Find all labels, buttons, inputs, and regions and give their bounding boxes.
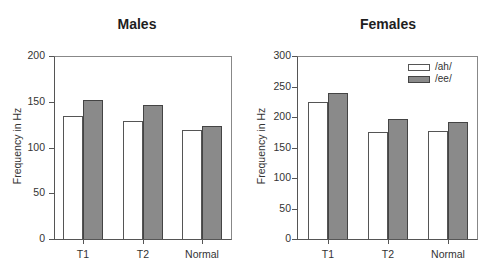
legend-swatch-ah (408, 64, 430, 71)
y-tick-label: 250 (261, 80, 291, 92)
y-tick (292, 56, 297, 57)
x-tick (448, 239, 449, 244)
y-tick-label: 100 (261, 171, 291, 183)
bar-t1-ah (308, 102, 328, 239)
legend-label: /ah/ (435, 61, 452, 72)
x-tick-label: T2 (363, 248, 413, 260)
y-tick (292, 117, 297, 118)
y-tick-label: 150 (261, 141, 291, 153)
x-tick-label: T1 (303, 248, 353, 260)
y-tick-label: 300 (261, 49, 291, 61)
y-tick (292, 178, 297, 179)
chart-title: Females (328, 16, 448, 32)
bar-t2-ee (388, 119, 408, 239)
y-tick (292, 209, 297, 210)
y-tick (292, 239, 297, 240)
y-tick (292, 87, 297, 88)
x-tick (388, 239, 389, 244)
y-tick-label: 50 (261, 202, 291, 214)
y-tick-label: 200 (261, 110, 291, 122)
x-tick-label: Normal (423, 248, 473, 260)
chart-panel-females: FemalesFrequency in Hz050100150200250300… (0, 0, 491, 268)
y-tick-label: 0 (261, 232, 291, 244)
bar-t1-ee (328, 93, 348, 239)
y-tick (292, 148, 297, 149)
bar-normal-ee (448, 122, 468, 239)
bar-t2-ah (368, 132, 388, 239)
x-tick (328, 239, 329, 244)
legend-label: /ee/ (435, 73, 452, 84)
bar-normal-ah (428, 131, 448, 239)
legend-swatch-ee (408, 76, 430, 83)
